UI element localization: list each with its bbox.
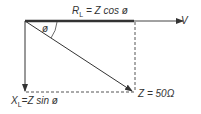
phasor-diagram: RL = Z cos ø V ø XL=Z sin ø Z = 50Ω <box>0 0 201 114</box>
angle-arc <box>51 22 57 38</box>
resistance-label: RL = Z cos ø <box>72 6 128 18</box>
impedance-label: Z = 50Ω <box>138 89 174 99</box>
reactance-label: XL=Z sin ø <box>11 96 58 108</box>
angle-label: ø <box>42 24 48 34</box>
voltage-label: V <box>181 16 188 26</box>
